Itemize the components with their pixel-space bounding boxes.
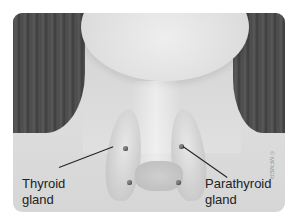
thyroid-isthmus [135,161,183,191]
parathyroid-label-line2: gland [205,192,271,208]
copyright-text: © MFMER [269,151,275,179]
parathyroid-label: Parathyroid gland [205,176,271,208]
hair-left [13,13,85,133]
parathyroid-dot [176,180,181,185]
thyroid-label-line1: Thyroid [22,176,65,192]
thyroid-label-line2: gland [22,192,65,208]
parathyroid-dot [123,146,128,151]
parathyroid-label-line1: Parathyroid [205,176,271,192]
parathyroid-dot [127,180,132,185]
illustration-frame: Thyroid gland Parathyroid gland © MFMER [13,13,285,212]
thyroid-label: Thyroid gland [22,176,65,208]
